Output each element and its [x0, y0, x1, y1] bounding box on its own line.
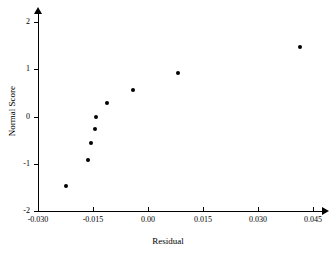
x-tick	[258, 207, 259, 212]
data-point	[298, 45, 302, 49]
x-tick-label: 0.045	[290, 215, 336, 224]
y-tick-label: 2	[8, 17, 30, 26]
y-tick	[34, 69, 39, 70]
x-axis-label: Residual	[0, 236, 336, 246]
data-point	[94, 115, 98, 119]
y-tick	[34, 117, 39, 118]
x-tick	[313, 207, 314, 212]
x-tick-label: 0.015	[180, 215, 226, 224]
y-axis-line	[38, 12, 39, 212]
y-tick	[34, 22, 39, 23]
normal-probability-plot: -0.030-0.0150.000.0150.0300.045 -2-1012 …	[0, 0, 336, 256]
y-tick-label: -1	[8, 159, 30, 168]
y-tick	[34, 211, 39, 212]
data-point	[131, 88, 135, 92]
y-tick	[34, 164, 39, 165]
data-point	[93, 127, 97, 131]
x-tick-label: -0.015	[70, 215, 116, 224]
x-tick	[148, 207, 149, 212]
data-point	[105, 101, 109, 105]
data-point	[176, 71, 180, 75]
x-axis-arrow-icon	[322, 207, 329, 215]
y-axis-label: Normal Score	[7, 71, 17, 151]
x-tick	[93, 207, 94, 212]
data-point	[89, 141, 93, 145]
x-axis-line	[38, 211, 326, 212]
y-axis-arrow-icon	[34, 7, 42, 14]
x-tick-label: -0.030	[15, 215, 61, 224]
data-point	[86, 158, 90, 162]
x-tick-label: 0.030	[235, 215, 281, 224]
x-tick	[203, 207, 204, 212]
y-tick-label: -2	[8, 206, 30, 215]
data-point	[64, 184, 68, 188]
x-tick-label: 0.00	[125, 215, 171, 224]
